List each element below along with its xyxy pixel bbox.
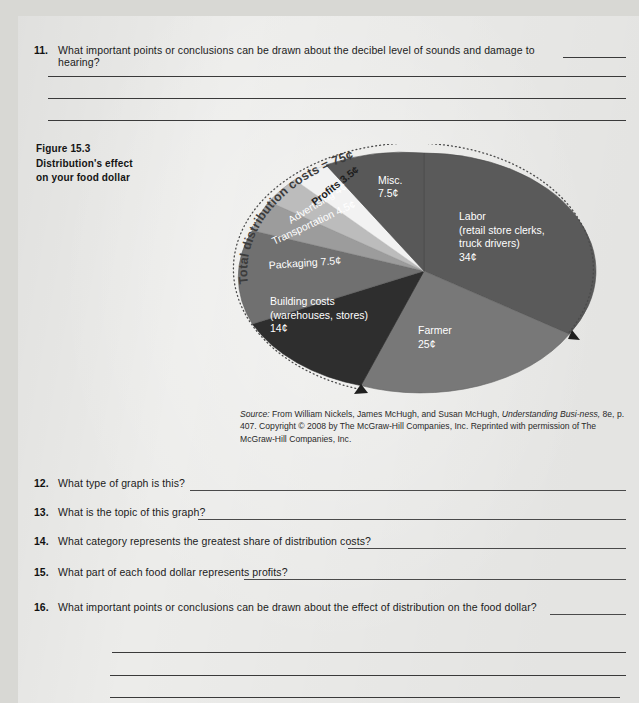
svg-text:Labor: Labor	[459, 210, 486, 222]
question-13-answer-line[interactable]	[198, 519, 626, 520]
question-14-text: What category represents the greatest sh…	[58, 535, 371, 547]
question-12-number: 12.	[34, 477, 49, 489]
source-title-2: ness,	[580, 409, 601, 419]
question-12-answer-line[interactable]	[190, 490, 626, 491]
question-11-inline-blank[interactable]	[563, 57, 626, 58]
question-14-number: 14.	[34, 535, 49, 547]
question-11-number: 11.	[34, 44, 48, 56]
question-15-number: 15.	[34, 566, 49, 578]
figure-title-line-1: Distribution's effect	[36, 157, 133, 172]
svg-text:Misc.: Misc.	[378, 174, 403, 186]
question-12-text: What type of graph is this?	[58, 477, 185, 489]
svg-text:Farmer: Farmer	[418, 324, 452, 336]
question-16-answer-line-3[interactable]	[110, 697, 620, 698]
worksheet-page: 11. What important points or conclusions…	[18, 16, 639, 703]
question-16-answer-line-1[interactable]	[112, 652, 626, 653]
source-title-1: Understanding Busi-	[502, 409, 580, 419]
question-16-number: 16.	[34, 601, 49, 613]
question-13-text: What is the topic of this graph?	[58, 506, 205, 518]
svg-text:14¢: 14¢	[270, 322, 288, 334]
question-15-answer-line[interactable]	[244, 579, 626, 580]
svg-text:(warehouses, stores): (warehouses, stores)	[270, 309, 368, 321]
svg-text:Building costs: Building costs	[270, 295, 335, 307]
question-13-number: 13.	[34, 506, 49, 518]
figure-number: Figure 15.3	[36, 142, 133, 157]
svg-text:25¢: 25¢	[418, 338, 436, 350]
figure-source-note: Source: From William Nickels, James McHu…	[240, 408, 632, 445]
source-text-1: From William Nickels, James McHugh, and …	[270, 409, 502, 419]
question-16-answer-line-2[interactable]	[110, 675, 626, 676]
question-14-answer-line[interactable]	[348, 548, 626, 549]
figure-title-line-2: on your food dollar	[36, 171, 133, 186]
pie-chart: Total distribution costs = 75¢ Misc. 7.5…	[228, 144, 639, 394]
svg-text:truck drivers): truck drivers)	[459, 237, 520, 249]
source-prefix: Source:	[240, 409, 270, 419]
question-11-text: What important points or conclusions can…	[58, 44, 578, 68]
question-15-text: What part of each food dollar represents…	[58, 566, 288, 578]
svg-text:(retail store clerks,: (retail store clerks,	[459, 224, 545, 236]
pie-chart-svg: Total distribution costs = 75¢ Misc. 7.5…	[228, 144, 639, 394]
question-11-answer-line-1[interactable]	[48, 76, 626, 77]
question-11-answer-line-2[interactable]	[48, 98, 626, 99]
svg-text:34¢: 34¢	[459, 251, 477, 263]
question-11-answer-line-3[interactable]	[48, 120, 626, 121]
svg-text:7.5¢: 7.5¢	[378, 187, 399, 199]
question-16-inline-blank[interactable]	[550, 614, 626, 615]
figure-caption: Figure 15.3 Distribution's effect on you…	[36, 142, 133, 186]
question-16-text: What important points or conclusions can…	[58, 601, 578, 613]
